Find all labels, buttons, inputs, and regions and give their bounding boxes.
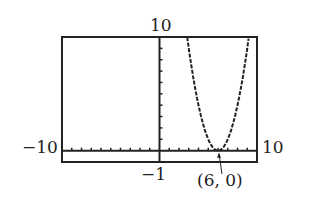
point-annotation: (6, 0) <box>197 172 243 189</box>
x-max-label: 10 <box>262 139 284 156</box>
y-min-label: −1 <box>141 166 166 183</box>
y-max-label: 10 <box>150 17 172 34</box>
parabola-curve <box>187 37 248 150</box>
x-min-label: −10 <box>22 139 58 156</box>
